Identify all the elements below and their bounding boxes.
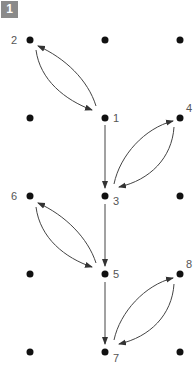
node-label-5: 5: [113, 269, 119, 280]
node-label-7: 7: [113, 353, 119, 364]
node-label-2: 2: [11, 35, 17, 46]
node-label-3: 3: [113, 196, 119, 207]
edge-4-3: [119, 127, 174, 187]
edge-7-8: [114, 278, 173, 340]
node-label-6: 6: [11, 191, 17, 202]
edge-8-7: [119, 284, 174, 344]
edge-3-4: [114, 121, 173, 184]
node-label-8: 8: [186, 259, 192, 270]
edge-2-1: [36, 50, 92, 110]
node-label-1: 1: [113, 113, 119, 124]
edge-6-5: [36, 207, 92, 267]
edge-5-6: [38, 203, 96, 263]
graph-diagram: [0, 0, 194, 367]
node-label-4: 4: [186, 103, 192, 114]
